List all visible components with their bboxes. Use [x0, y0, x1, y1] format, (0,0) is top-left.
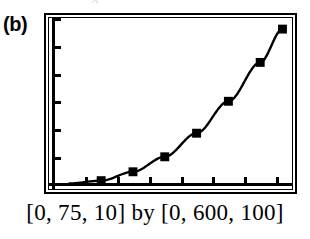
calculator-screen-inner-border	[48, 17, 293, 190]
window-settings-caption: [0, 75, 10] by [0, 600, 100]	[0, 200, 310, 225]
data-point-marker	[160, 152, 169, 161]
data-point-marker	[224, 97, 233, 106]
data-point-marker	[278, 25, 287, 34]
data-point-marker	[97, 176, 106, 185]
data-point-marker	[256, 58, 265, 67]
calculator-screen-frame	[44, 13, 297, 194]
data-point-marker	[129, 167, 138, 176]
clipped-glyph: x	[92, 0, 99, 6]
data-markers	[97, 25, 287, 185]
plot-area	[49, 18, 292, 189]
figure-panel-b: x (b) [0, 75, 10] by [0, 600, 100]	[0, 0, 310, 239]
curve-plot	[49, 18, 292, 189]
data-point-marker	[192, 129, 201, 138]
panel-label: (b)	[3, 14, 27, 34]
